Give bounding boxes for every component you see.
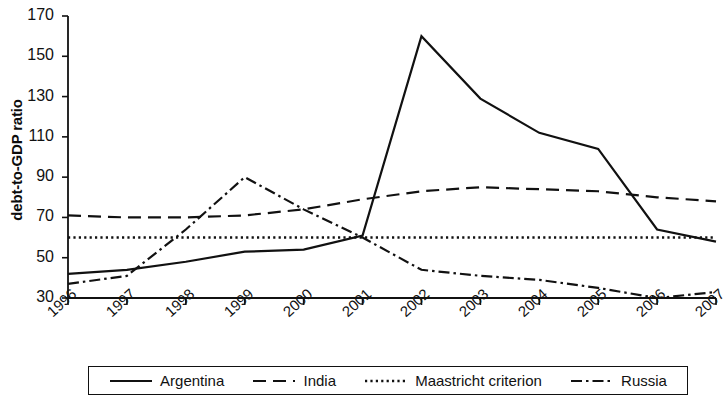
series-line-india — [68, 187, 716, 217]
legend-item-india: India — [252, 372, 336, 389]
legend-swatch-solid — [109, 376, 153, 386]
legend-label: Argentina — [160, 372, 224, 389]
legend-item-russia: Russia — [570, 372, 667, 389]
legend-item-argentina: Argentina — [109, 372, 224, 389]
legend-label: India — [303, 372, 336, 389]
chart-legend: ArgentinaIndiaMaastricht criterionRussia — [88, 366, 688, 395]
axis-spine — [68, 16, 716, 298]
legend-label: Maastricht criterion — [415, 372, 542, 389]
legend-item-maastricht-criterion: Maastricht criterion — [364, 372, 542, 389]
legend-swatch-dotted — [364, 376, 408, 386]
legend-label: Russia — [621, 372, 667, 389]
legend-swatch-dashdot — [570, 376, 614, 386]
legend-swatch-dashed — [252, 376, 296, 386]
